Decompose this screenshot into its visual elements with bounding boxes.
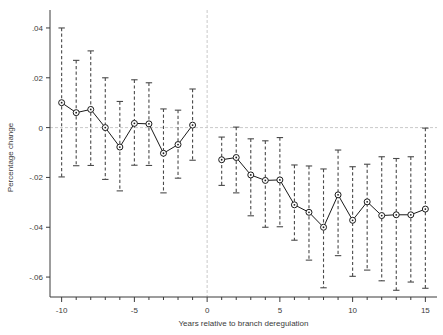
data-point-center xyxy=(294,204,296,206)
data-point-center xyxy=(177,144,179,146)
data-point-center xyxy=(133,122,135,124)
data-point-center xyxy=(148,123,150,125)
data-point-center xyxy=(104,127,106,129)
y-axis-title: Percentage change xyxy=(6,122,15,192)
data-point-center xyxy=(323,226,325,228)
data-point-center xyxy=(192,124,194,126)
chart-figure: .04.020-.02-.04-.06-10-5051015Years rela… xyxy=(0,0,443,335)
data-point-center xyxy=(410,214,412,216)
chart-canvas: .04.020-.02-.04-.06-10-5051015Years rela… xyxy=(0,0,443,335)
x-tick-label-1: -5 xyxy=(131,306,139,315)
data-point-center xyxy=(366,201,368,203)
x-tick-label-5: 15 xyxy=(421,306,430,315)
y-tick-label-1: .02 xyxy=(32,74,44,83)
y-tick-label-4: -.04 xyxy=(29,223,43,232)
data-point-center xyxy=(235,157,237,159)
x-axis-title: Years relative to branch deregulation xyxy=(178,319,308,328)
data-point-center xyxy=(424,208,426,210)
y-tick-label-2: 0 xyxy=(39,124,44,133)
x-tick-label-4: 10 xyxy=(348,306,357,315)
data-point-center xyxy=(90,109,92,111)
x-tick-label-0: -10 xyxy=(56,306,68,315)
data-point-center xyxy=(250,174,252,176)
y-tick-label-5: -.06 xyxy=(29,273,43,282)
data-point-center xyxy=(395,214,397,216)
data-point-center xyxy=(308,211,310,213)
data-point-center xyxy=(279,179,281,181)
data-point-center xyxy=(381,215,383,217)
data-point-center xyxy=(119,146,121,148)
data-point-center xyxy=(264,180,266,182)
data-point-center xyxy=(221,159,223,161)
data-point-center xyxy=(163,152,165,154)
x-tick-label-3: 5 xyxy=(278,306,283,315)
data-point-center xyxy=(337,194,339,196)
y-tick-label-3: -.02 xyxy=(29,173,43,182)
data-point-center xyxy=(75,112,77,114)
data-point-center xyxy=(61,102,63,104)
x-tick-label-2: 0 xyxy=(205,306,210,315)
y-tick-label-0: .04 xyxy=(32,24,44,33)
data-point-center xyxy=(352,219,354,221)
